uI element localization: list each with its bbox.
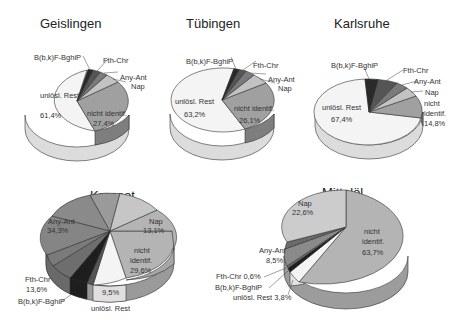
label-ni-pct: 63,7% xyxy=(362,248,383,257)
label-rest: unlösl. Rest xyxy=(322,103,361,112)
label-any: Any-Ant xyxy=(120,73,147,82)
label-ni: nicht identif. xyxy=(87,109,127,118)
label-fth: Fth-Chr xyxy=(253,61,278,70)
label-fth-pct: 13,6% xyxy=(26,285,47,294)
chart-kreosot: Kreosot Any-Ant 34,3% Nap 13,1% nicht id… xyxy=(0,180,220,330)
label-fth: Fth-Chr xyxy=(103,56,128,65)
label-ni-2: identif. xyxy=(362,237,384,246)
label-bbk: B(b,k)F-BghiP xyxy=(331,61,378,70)
label-rest: unlösl. Rest 3,8% xyxy=(233,293,291,302)
label-ni-pct: 26,1% xyxy=(239,116,260,125)
label-nap: Nap xyxy=(298,199,312,208)
label-ni-pct: 27,4% xyxy=(93,119,114,128)
label-bbk: B(b,k)F-BghiP xyxy=(186,57,233,66)
label-any: Any-Ant xyxy=(48,217,75,226)
label-nap-pct: 22,6% xyxy=(292,208,313,217)
label-fth: Fth-Chr xyxy=(25,275,50,284)
chart-mitteloel: Mittelöl Nap 22,6% nicht identif. 63,7% … xyxy=(230,180,464,330)
label-bbk: B(b,k)F-BghiP xyxy=(34,53,81,62)
label-rest: unlösl. Rest xyxy=(175,97,214,106)
label-fth: Fth-Chr xyxy=(403,66,428,75)
chart-tuebingen: Tübingen B(b,k)F-BghiP Fth-Chr Any-Ant N… xyxy=(150,0,310,170)
label-any: Any-Ant xyxy=(414,77,441,86)
label-bbk: B(b,k)F-BghiP xyxy=(215,283,262,292)
label-rest-pct: 67,4% xyxy=(331,115,352,124)
label-nap: Nap xyxy=(131,82,145,91)
label-ni-2: identif. xyxy=(130,256,152,265)
label-nap: Nap xyxy=(425,88,439,97)
chart-karlsruhe: Karlsruhe B(b,k)F-BghiP Fth-Chr Any-Ant … xyxy=(305,0,464,170)
label-ni-1: nicht xyxy=(134,246,150,255)
label-ni-1: nicht xyxy=(424,99,440,108)
label-fth: Fth-Chr 0,6% xyxy=(216,272,261,281)
pie-3d xyxy=(230,180,464,330)
label-bbk: B(b,k)F-BghiP xyxy=(18,297,65,306)
label-ni-2: identif. xyxy=(424,109,446,118)
label-ni-pct: 29,6% xyxy=(130,266,151,275)
label-any: Any-Ant xyxy=(259,246,286,255)
label-nap-pct: 13,1% xyxy=(143,226,164,235)
label-any-pct: 34,3% xyxy=(47,226,68,235)
label-any-pct: 8,5% xyxy=(266,256,283,265)
label-any: Any-Ant xyxy=(268,75,295,84)
label-nap: Nap xyxy=(149,217,163,226)
label-ni: nicht identif. xyxy=(234,104,274,113)
label-ni-pct: 14,8% xyxy=(424,119,445,128)
chart-geislingen: Geislingen B(b,k)F-BghiP Fth-Chr Any-Ant… xyxy=(0,0,155,170)
label-nap: Nap xyxy=(278,84,292,93)
label-rest-pct: 9,5% xyxy=(102,288,119,297)
label-ni-1: nicht xyxy=(364,227,380,236)
label-rest-pct: 63,2% xyxy=(184,110,205,119)
label-rest: unlösl. Rest xyxy=(91,304,130,313)
label-rest: unlösl. Rest xyxy=(40,91,79,100)
label-rest-pct: 61,4% xyxy=(40,111,61,120)
